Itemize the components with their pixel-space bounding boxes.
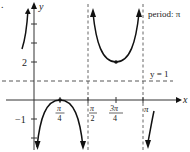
y-axis-arrow-icon xyxy=(31,2,37,9)
x-axis-arrow-icon xyxy=(176,97,182,103)
y-tick-2: 2 xyxy=(22,57,27,68)
svg-text:4: 4 xyxy=(113,114,117,123)
y-axis-label: y xyxy=(38,1,44,12)
x-tick-3pi-4: 3π 4 xyxy=(109,104,123,123)
curve-branch-right xyxy=(148,111,154,142)
x-tick-pi-4: π 4 xyxy=(56,104,65,123)
curve-branch-left xyxy=(22,10,28,49)
arrow-up-left-icon xyxy=(90,8,96,17)
point-min-3pi4-2 xyxy=(114,60,118,64)
trig-graph: . x y 2 −1 π 4 π 2 3π 4 π xyxy=(0,0,190,152)
svg-text:4: 4 xyxy=(58,114,62,123)
svg-text:π: π xyxy=(57,104,62,113)
arrow-down-far-right-icon xyxy=(145,140,151,149)
midline-annotation: y = 1 xyxy=(150,69,169,79)
svg-text:2: 2 xyxy=(91,114,95,123)
period-annotation: period: π xyxy=(148,9,181,19)
x-axis-label: x xyxy=(182,94,188,105)
y-tick-neg1: −1 xyxy=(15,114,26,125)
arrow-down-left-icon xyxy=(35,141,41,150)
corner-mark: . xyxy=(1,0,4,10)
arrow-up-right-icon xyxy=(136,8,142,17)
x-tick-pi: π xyxy=(144,104,149,114)
arrow-down-right-icon xyxy=(80,141,86,150)
svg-text:3π: 3π xyxy=(109,104,119,113)
svg-text:π: π xyxy=(90,104,95,113)
x-tick-pi-2: π 2 xyxy=(89,104,97,123)
curve-branch-up xyxy=(93,13,139,62)
point-max-pi4-0 xyxy=(58,98,62,102)
